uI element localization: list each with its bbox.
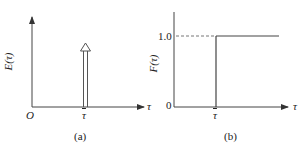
panel-b-ylabel: F(τ): [148, 55, 159, 73]
panel-a: [32, 17, 144, 107]
panel-a-ylabel: E(τ): [3, 53, 14, 71]
panel-b-xtick-tau-bar: τ: [213, 110, 217, 121]
panel-b-ytick-1: 1.0: [158, 31, 172, 42]
panel-b-ytick-0: 0: [166, 100, 172, 111]
impulse-arrow-icon: [81, 43, 91, 107]
panel-b-xlabel: τ: [293, 101, 297, 112]
panel-a-origin-label: O: [26, 110, 34, 121]
panel-b-caption: (b): [224, 131, 237, 142]
panel-a-xlabel: τ: [147, 101, 151, 112]
panel-a-caption: (a): [74, 131, 86, 142]
diagram-canvas: [0, 0, 306, 152]
panel-b: [174, 12, 288, 107]
panel-a-xtick-tau-bar: τ: [82, 110, 86, 121]
